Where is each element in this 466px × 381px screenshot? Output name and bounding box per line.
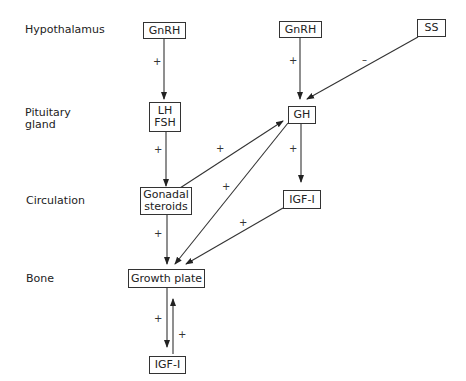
node-gnrh-right: GnRH bbox=[279, 21, 322, 38]
node-gnrh-left: GnRH bbox=[143, 22, 186, 39]
sign-gh-igf1: + bbox=[289, 143, 297, 154]
node-igf1-circulation: IGF-I bbox=[283, 190, 321, 209]
node-lh-fsh: LH FSH bbox=[149, 102, 181, 132]
node-steroids-label: steroids bbox=[144, 201, 188, 213]
arrow-igf1-growthplate bbox=[186, 208, 283, 264]
arrow-ss-gh bbox=[307, 37, 418, 99]
sign-gh-growthplate: + bbox=[222, 181, 230, 192]
node-ss: SS bbox=[417, 19, 446, 37]
sign-ss-gh: – bbox=[362, 54, 367, 65]
sign-gonadal-growthplate: + bbox=[154, 228, 162, 239]
sign-igf1-growthplate: + bbox=[239, 217, 247, 228]
sign-growthplate-igf1: + bbox=[154, 313, 162, 324]
node-igf1-bone: IGF-I bbox=[149, 356, 186, 374]
node-gonadal-steroids: Gonadal steroids bbox=[140, 187, 192, 215]
sign-igf1-growthplate-feedback: + bbox=[178, 329, 186, 340]
arrow-layer bbox=[0, 0, 466, 381]
level-circulation: Circulation bbox=[26, 195, 85, 207]
sign-lhfsh-gonadal: + bbox=[154, 144, 162, 155]
level-pituitary-gland: Pituitary gland bbox=[25, 107, 71, 131]
node-fsh-label: FSH bbox=[154, 117, 175, 129]
node-gh: GH bbox=[288, 106, 316, 124]
node-growth-plate: Growth plate bbox=[128, 269, 205, 288]
level-pituitary-line2: gland bbox=[25, 119, 71, 131]
level-bone: Bone bbox=[26, 273, 54, 285]
arrow-gonadal-gh bbox=[180, 121, 283, 188]
sign-gonadal-gh: + bbox=[216, 143, 224, 154]
level-hypothalamus: Hypothalamus bbox=[25, 24, 105, 36]
sign-gnrh-gh: + bbox=[289, 55, 297, 66]
sign-gnrh-lhfsh: + bbox=[153, 56, 161, 67]
